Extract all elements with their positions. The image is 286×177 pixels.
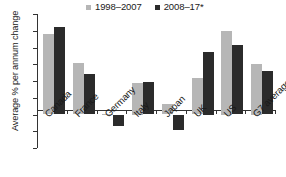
x-axis-category-labels: CanadaFranceGermanyItalyJapanUKUSG7 aver… — [37, 112, 277, 177]
legend-item-2008-17: 2008–17* — [155, 2, 204, 12]
legend-swatch-light — [86, 5, 91, 10]
y-axis-tick — [33, 14, 37, 15]
y-axis-tick — [33, 48, 37, 49]
y-axis-tick — [33, 98, 37, 99]
bar — [232, 45, 243, 115]
y-axis-tick — [33, 81, 37, 82]
legend-label-2008-17: 2008–17* — [164, 2, 204, 12]
legend-swatch-dark — [155, 5, 160, 10]
legend-label-1998-2007: 1998–2007 — [95, 2, 142, 12]
chart-legend: 1998–2007 2008–17* — [86, 2, 204, 12]
legend-item-1998-2007: 1998–2007 — [86, 2, 142, 12]
y-axis-title: Average % per annum change — [10, 11, 20, 131]
bar-chart: 1998–2007 2008–17* Average % per annum c… — [0, 0, 286, 177]
y-axis-tick — [33, 64, 37, 65]
y-axis-tick — [33, 31, 37, 32]
